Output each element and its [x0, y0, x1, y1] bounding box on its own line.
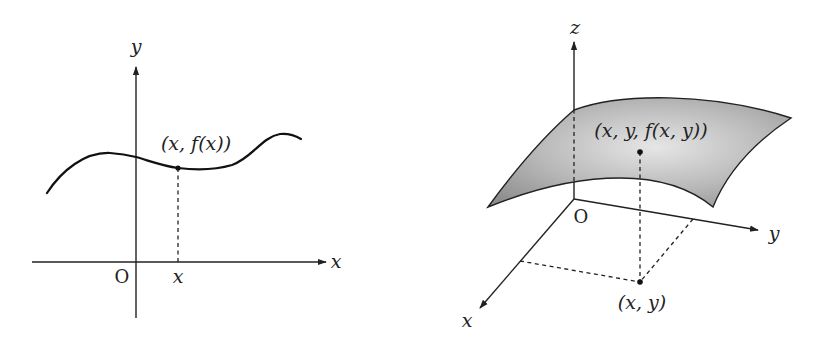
origin-label-3d: O — [574, 206, 589, 227]
x-projection — [520, 261, 640, 282]
x-tick-label: x — [173, 265, 184, 287]
x-axis-label-3d: x — [462, 309, 473, 331]
graph-2d: y x O x (x, f(x)) — [32, 35, 342, 318]
y-axis-label-3d: y — [768, 222, 780, 244]
base-point — [637, 279, 643, 285]
y-projection — [640, 219, 693, 282]
x-axis-3d — [480, 199, 574, 308]
graph-3d: z y x O (x, y, f(x, y)) (x, y) — [462, 16, 791, 331]
y-axis-label: y — [130, 35, 142, 57]
point-label: (x, f(x)) — [161, 132, 231, 154]
base-point-label: (x, y) — [618, 291, 666, 313]
surface-point — [637, 149, 643, 155]
curve-point — [175, 165, 180, 170]
y-axis-3d — [574, 199, 758, 230]
x-axis-label: x — [331, 250, 342, 272]
z-axis-label: z — [569, 16, 581, 38]
figure-canvas: y x O x (x, f(x)) z y x O (x, y, f(x, y)… — [0, 0, 820, 346]
surface-point-label: (x, y, f(x, y)) — [594, 119, 707, 141]
origin-label: O — [115, 266, 130, 287]
